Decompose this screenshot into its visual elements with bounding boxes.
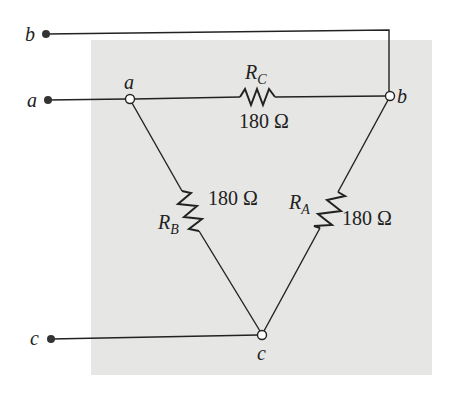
node-a-label: a	[124, 71, 134, 93]
terminal-b-label: b	[25, 23, 35, 45]
resistor-rb-subscript: B	[170, 222, 179, 237]
node-c-label: c	[257, 342, 266, 364]
resistor-rc-subscript: C	[257, 72, 267, 87]
resistor-ra-value: 180 Ω	[342, 207, 392, 229]
node-a	[126, 95, 135, 104]
wire-a-terminal	[48, 99, 126, 100]
resistor-ra-letter: R	[288, 191, 301, 213]
resistor-rc-letter: R	[244, 61, 257, 83]
node-b	[386, 92, 395, 101]
node-b-label: b	[397, 85, 407, 107]
terminal-c-dot[interactable]	[47, 335, 55, 343]
delta-circuit-diagram: b a c a b c RC 180 Ω RB 180 Ω RA 180 Ω	[0, 0, 449, 397]
terminal-c-label: c	[30, 327, 39, 349]
wire-rc-b	[275, 96, 386, 97]
resistor-rc-value: 180 Ω	[239, 110, 289, 132]
terminal-a-label: a	[27, 89, 37, 111]
terminal-a-dot[interactable]	[44, 96, 52, 104]
resistor-rb-letter: R	[157, 211, 170, 233]
terminal-b-dot[interactable]	[42, 30, 50, 38]
node-c	[258, 331, 267, 340]
resistor-rb-value: 180 Ω	[208, 187, 258, 209]
resistor-ra-subscript: A	[300, 202, 310, 217]
